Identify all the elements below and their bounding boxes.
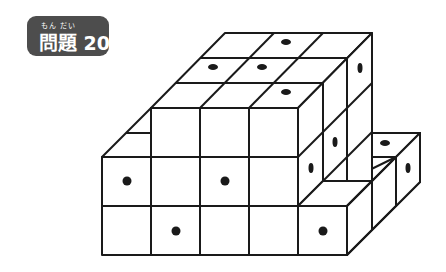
cube-figure xyxy=(0,0,446,272)
